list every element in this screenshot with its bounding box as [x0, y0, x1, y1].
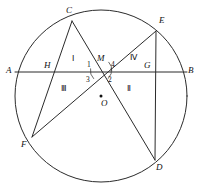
region-label-4: Ⅳ: [130, 54, 137, 62]
angle-label-1: 1: [87, 61, 91, 69]
point-label-D: D: [156, 163, 163, 172]
point-label-H: H: [44, 61, 51, 70]
point-label-O: O: [101, 99, 108, 108]
angle-label-3: 3: [86, 76, 90, 84]
geometry-canvas: [0, 0, 201, 191]
chord-ed-line: [155, 31, 156, 160]
point-label-M: M: [97, 54, 105, 63]
angle-arc-1: [90, 69, 93, 79]
angle-label-2: 2: [108, 76, 112, 84]
point-label-G: G: [144, 61, 151, 70]
point-label-F: F: [21, 140, 27, 149]
point-label-C: C: [66, 6, 72, 15]
region-label-3: Ⅲ: [61, 85, 67, 93]
geometry-figure: A B C D E F G H M O Ⅰ Ⅱ Ⅲ Ⅳ 1 2 3 4: [0, 0, 201, 191]
angle-label-4: 4: [111, 61, 115, 69]
point-label-E: E: [159, 16, 165, 25]
region-label-2: Ⅱ: [127, 85, 131, 93]
point-label-B: B: [188, 66, 194, 75]
region-label-1: Ⅰ: [72, 55, 74, 63]
point-label-A: A: [6, 66, 12, 75]
